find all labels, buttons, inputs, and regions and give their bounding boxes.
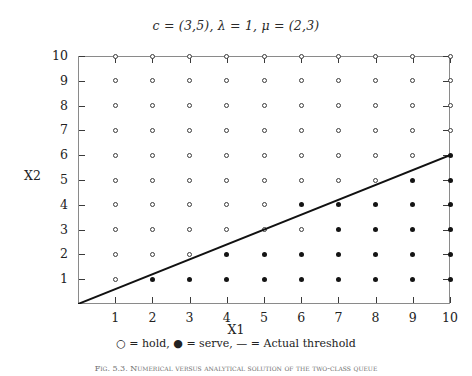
data-point-serve [410,227,415,232]
data-point-serve [410,277,415,282]
y-tick [79,56,85,57]
data-point-serve [373,227,378,232]
data-point-hold [113,153,118,158]
data-point-hold [262,227,267,232]
y-tick-label: 3 [34,224,68,237]
data-point-hold [448,78,453,83]
data-point-hold [113,103,118,108]
data-point-hold [262,78,267,83]
axis-bottom [78,303,450,304]
data-point-hold [187,227,192,232]
legend-hold-label: = hold, [129,337,169,350]
data-point-hold [187,202,192,207]
data-point-hold [150,54,155,59]
data-point-hold [150,78,155,83]
chart-legend: ○ = hold, ● = serve, — = Actual threshol… [0,337,472,350]
data-point-hold [150,128,155,133]
y-tick-label: 6 [34,149,68,162]
y-tick-label: 4 [34,199,68,212]
data-point-serve [299,202,304,207]
data-point-hold [262,103,267,108]
data-point-hold [187,78,192,83]
legend-line-icon: — [236,337,247,350]
data-point-hold [336,103,341,108]
data-point-hold [373,153,378,158]
chart-title: c = (3,5), λ = 1, μ = (2,3) [0,18,472,33]
data-point-hold [113,202,118,207]
data-point-hold [410,128,415,133]
chart-title-text: c = (3,5), λ = 1, μ = (2,3) [153,18,320,33]
data-point-hold [150,178,155,183]
data-point-hold [373,103,378,108]
y-tick [79,106,85,107]
x-tick-label: 9 [398,312,428,325]
x-tick [115,297,116,303]
figure-caption: Fig. 5.3. Numerical versus analytical so… [0,364,472,376]
data-point-hold [224,128,229,133]
data-point-hold [336,153,341,158]
data-point-hold [150,202,155,207]
data-point-hold [410,78,415,83]
data-point-hold [262,54,267,59]
y-tick [79,254,85,255]
data-point-hold [187,178,192,183]
x-tick [413,297,414,303]
data-point-serve [262,277,267,282]
x-tick [450,297,451,303]
figure-scatter-threshold: c = (3,5), λ = 1, μ = (2,3) X2 X1 123456… [0,0,472,376]
data-point-serve [336,252,341,257]
plot-area: 12345678910 12345678910 [78,56,450,304]
legend-hold-icon: ○ [116,337,126,350]
data-point-hold [113,178,118,183]
data-point-hold [113,252,118,257]
data-point-hold [187,54,192,59]
data-point-serve [187,277,192,282]
data-point-serve [448,178,453,183]
x-tick-label: 2 [137,312,167,325]
y-tick-label: 7 [34,124,68,137]
x-tick [264,297,265,303]
data-point-serve [224,252,229,257]
data-point-hold [299,54,304,59]
data-point-hold [187,252,192,257]
y-tick [79,155,85,156]
legend-serve-label: = serve, [186,337,232,350]
data-point-hold [187,153,192,158]
data-point-serve [410,202,415,207]
data-point-serve [336,202,341,207]
data-point-serve [410,178,415,183]
data-point-hold [224,153,229,158]
data-point-hold [299,178,304,183]
data-point-serve [373,252,378,257]
y-tick-label: 5 [34,174,68,187]
data-point-hold [150,227,155,232]
data-point-serve [299,277,304,282]
y-tick [79,279,85,280]
y-tick [79,230,85,231]
data-point-hold [150,252,155,257]
x-tick-label: 1 [100,312,130,325]
data-point-hold [373,54,378,59]
data-point-hold [448,128,453,133]
data-point-hold [150,153,155,158]
data-point-serve [410,252,415,257]
data-point-hold [410,54,415,59]
y-tick [79,180,85,181]
data-point-hold [224,227,229,232]
data-point-hold [336,78,341,83]
x-tick-label: 10 [435,312,465,325]
data-point-hold [373,178,378,183]
x-tick [190,297,191,303]
y-tick-label: 10 [34,50,68,63]
data-point-serve [448,277,453,282]
legend-line-label: = Actual threshold [251,337,356,350]
data-point-hold [410,153,415,158]
data-point-hold [336,128,341,133]
data-point-serve [336,277,341,282]
x-tick [152,297,153,303]
data-point-serve [448,153,453,158]
data-point-hold [299,153,304,158]
x-tick-label: 3 [175,312,205,325]
data-point-hold [262,202,267,207]
data-point-hold [113,227,118,232]
